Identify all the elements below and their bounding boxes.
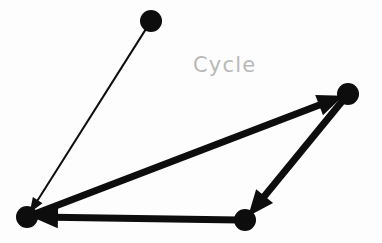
graph-label-layer: Cycle — [0, 0, 382, 243]
diagram-canvas: Cycle — [0, 0, 382, 243]
cycle-label: Cycle — [193, 53, 256, 77]
